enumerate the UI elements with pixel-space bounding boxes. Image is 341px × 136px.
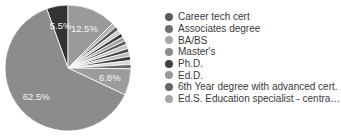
legend-label: Ed.D. (178, 70, 203, 81)
legend-dot-icon (165, 95, 173, 103)
legend-label: Associates degree (178, 23, 260, 34)
pie-chart: 5.5%12.5%6.8%62.5% Career tech cert Asso… (0, 0, 341, 136)
legend-dot-icon (165, 48, 173, 56)
legend-item[interactable]: Master's (165, 46, 341, 58)
legend-dot-icon (165, 71, 173, 79)
legend-label: 6th Year degree with advanced cert. (178, 81, 338, 92)
slice-value-label: 6.8% (99, 72, 121, 83)
legend-item[interactable]: 6th Year degree with advanced cert. (165, 81, 341, 93)
legend-label: BA/BS (178, 35, 207, 46)
legend-label: Ed.S. Education specialist - central o..… (178, 93, 341, 104)
legend-label: Ph.D. (178, 58, 203, 69)
legend-item[interactable]: Ed.S. Education specialist - central o..… (165, 93, 341, 105)
legend-dot-icon (165, 83, 173, 91)
legend-item[interactable]: Career tech cert (165, 11, 341, 23)
legend-label: Career tech cert (178, 11, 250, 22)
legend-dot-icon (165, 60, 173, 68)
legend-dot-icon (165, 13, 173, 21)
legend-label: Master's (178, 46, 215, 57)
slice-value-label: 5.5% (50, 20, 72, 31)
legend-dot-icon (165, 36, 173, 44)
chart-legend: Career tech cert Associates degree BA/BS… (165, 11, 341, 105)
slice-value-label: 62.5% (23, 91, 50, 102)
legend-item[interactable]: BA/BS (165, 34, 341, 46)
legend-item[interactable]: Ed.D. (165, 69, 341, 81)
pie-plot: 5.5%12.5%6.8%62.5% (0, 0, 136, 136)
slice-value-label: 12.5% (71, 23, 98, 34)
legend-dot-icon (165, 25, 173, 33)
legend-item[interactable]: Associates degree (165, 23, 341, 35)
legend-item[interactable]: Ph.D. (165, 58, 341, 70)
